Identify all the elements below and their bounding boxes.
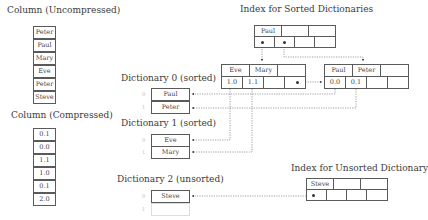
- compressed-cell: 1.0: [33, 167, 56, 180]
- dict-entry: Paul: [151, 88, 190, 101]
- unsorted-index-title: Index for Unsorted Dictionary: [291, 163, 428, 173]
- uncompressed-cell: Eve: [33, 65, 56, 78]
- pointer-dot-icon: [283, 41, 286, 44]
- compressed-cell: 0.1: [33, 180, 56, 193]
- dict-index: 0: [142, 91, 145, 97]
- dict-entry: Peter: [151, 101, 190, 114]
- uncompressed-cell: Peter: [33, 26, 56, 39]
- uncompressed-cell: Peter: [33, 78, 56, 91]
- pointer-dot-icon: [261, 41, 264, 44]
- unsorted-index-pointer: [366, 189, 388, 201]
- unsorted-index-pointer: [346, 189, 367, 201]
- dict1-title: Dictionary 1 (sorted): [121, 118, 216, 128]
- uncompressed-cell: Mary: [33, 52, 56, 65]
- pointer-dot-icon: [296, 81, 299, 84]
- dict-index: 1: [142, 149, 145, 155]
- compressed-column-title: Column (Compressed): [11, 110, 113, 120]
- unsorted-index-pointer: [326, 189, 347, 201]
- dict-entry: Steve: [151, 190, 190, 203]
- dict2-title: Dictionary 2 (unsorted): [117, 174, 224, 184]
- unsorted-index-pointer: [306, 189, 327, 201]
- dict-entry: Mary: [151, 146, 190, 159]
- sorted-index-pointer: [294, 36, 315, 48]
- uncompressed-cell: Steve: [33, 91, 56, 104]
- sorted-index-title: Index for Sorted Dictionaries: [240, 4, 373, 14]
- compressed-cell: 0.1: [33, 128, 56, 141]
- uncompressed-cell: Paul: [33, 39, 56, 52]
- uncompressed-column-title: Column (Uncompressed): [7, 5, 120, 15]
- compressed-cell: 0.0: [33, 141, 56, 154]
- leaf-value: 0.0: [324, 76, 346, 89]
- compressed-cell: 1.1: [33, 154, 56, 167]
- leaf-value: 1.1: [242, 76, 264, 89]
- leaf-value: 0.1: [345, 76, 367, 89]
- leaf-value: [263, 76, 285, 89]
- dict-index: 0: [142, 137, 145, 143]
- dict-index: 1: [142, 206, 145, 212]
- leaf-value: 1.0: [221, 76, 243, 89]
- compressed-cell: 2.0: [33, 193, 56, 206]
- dict-index: 1: [142, 104, 145, 110]
- dict0-title: Dictionary 0 (sorted): [121, 73, 216, 83]
- sorted-index-pointer: [314, 36, 336, 48]
- sorted-index-pointer: [254, 36, 275, 48]
- leaf-next-pointer: [284, 76, 306, 89]
- leaf-value: [366, 76, 388, 89]
- dict-entry-empty: [151, 203, 190, 216]
- dict-index: 0: [142, 193, 145, 199]
- pointer-dot-icon: [312, 194, 315, 197]
- leaf-value: [387, 76, 409, 89]
